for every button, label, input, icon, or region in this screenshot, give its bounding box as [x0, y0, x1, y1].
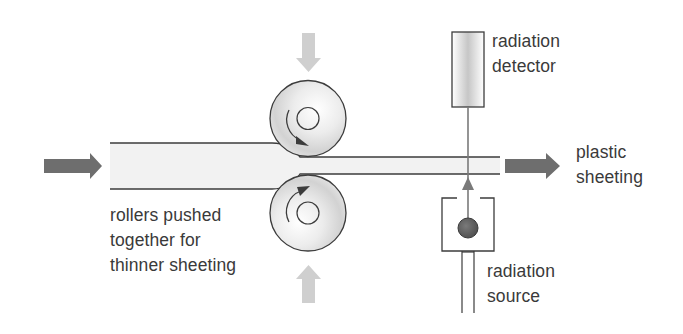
- label-line: together for: [110, 228, 236, 253]
- radiation-detector: [452, 32, 484, 107]
- radiation-detector-label: radiation detector: [492, 29, 560, 79]
- radiation-source-label: radiation source: [487, 259, 555, 309]
- label-line: thinner sheeting: [110, 253, 236, 278]
- label-line: radiation: [492, 29, 560, 54]
- top-roller: [270, 81, 346, 157]
- label-line: radiation: [487, 259, 555, 284]
- output-arrow-icon: [505, 153, 560, 179]
- bottom-roller: [270, 175, 346, 251]
- bottom-pressure-arrow-icon: [296, 265, 321, 303]
- label-line: source: [487, 284, 555, 309]
- plastic-sheeting-label: plastic sheeting: [576, 140, 643, 190]
- top-pressure-arrow-icon: [296, 33, 321, 72]
- beam-arrowhead-icon: [462, 177, 474, 190]
- rollers-label: rollers pushed together for thinner shee…: [110, 203, 236, 278]
- label-line: rollers pushed: [110, 203, 236, 228]
- label-line: sheeting: [576, 165, 643, 190]
- label-line: detector: [492, 54, 560, 79]
- input-arrow-icon: [44, 153, 102, 179]
- label-line: plastic: [576, 140, 643, 165]
